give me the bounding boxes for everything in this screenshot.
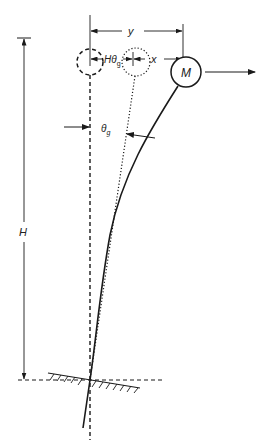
rotated-dotted-circle: [122, 48, 150, 76]
dimension-H: H: [17, 38, 31, 379]
deflected-pile-curve: [83, 86, 178, 428]
label-theta: θg: [101, 123, 110, 137]
label-x: x: [150, 53, 157, 65]
label-h-theta: Hθg: [104, 54, 121, 68]
theta-annotation: θg: [64, 123, 155, 138]
dimension-htheta-x: Hθg x: [91, 52, 182, 68]
rigid-rotation-position: [90, 48, 150, 380]
deflected-pile: M: [83, 57, 255, 428]
ground-hatching: [50, 374, 138, 393]
pile-deflection-diagram: y Hθg x M θg H: [0, 0, 269, 445]
rotated-dotted-line: [90, 76, 135, 380]
label-H: H: [19, 226, 27, 238]
label-M: M: [181, 66, 191, 80]
label-y: y: [127, 25, 135, 37]
